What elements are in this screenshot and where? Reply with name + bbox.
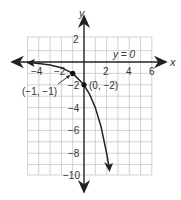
point-label-a: (−1, −1) xyxy=(22,86,57,97)
y-axis xyxy=(80,16,89,192)
y-tick-label: −4 xyxy=(68,103,80,114)
point-label-b: (0, −2) xyxy=(89,80,118,91)
x-tick-label: 2 xyxy=(103,66,109,77)
x-axis-label: x xyxy=(169,56,176,68)
x-tick-label: −4 xyxy=(31,66,43,77)
asymptote-label: y = 0 xyxy=(112,49,135,60)
y-tick-label: −2 xyxy=(68,80,80,91)
graph: x y −4 −2 2 4 6 2 −2 −4 −6 −8 −10 y = 0 … xyxy=(0,0,181,200)
x-tick-label: 6 xyxy=(149,66,155,77)
y-tick-label: −6 xyxy=(68,125,80,136)
x-tick-label: 4 xyxy=(126,66,132,77)
point-neg1-neg1 xyxy=(70,71,75,76)
y-tick-label: −8 xyxy=(68,148,80,159)
y-tick-label: 2 xyxy=(73,34,79,45)
point-0-neg2 xyxy=(81,82,86,87)
leader-arrow-icon xyxy=(66,75,71,79)
y-tick-label: −10 xyxy=(63,170,80,181)
